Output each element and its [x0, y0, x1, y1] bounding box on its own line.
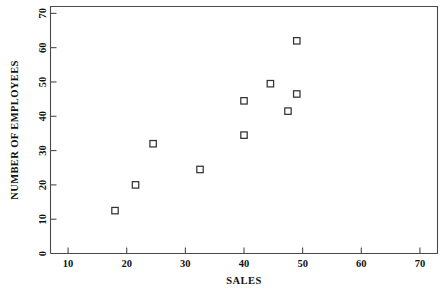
y-axis-tick-label: 60: [37, 42, 48, 53]
scatter-plot-figure: 10203040506070010203040506070SALESNUMBER…: [0, 0, 445, 290]
y-axis-tick-label: 40: [37, 111, 48, 122]
x-axis-tick-label: 10: [63, 258, 74, 269]
y-axis-title: NUMBER OF EMPLOYEES: [9, 60, 20, 200]
y-axis-tick-label: 70: [37, 8, 48, 19]
x-axis-tick-label: 30: [180, 258, 191, 269]
x-axis-tick-label: 40: [239, 258, 250, 269]
data-point-marker: [285, 108, 291, 114]
y-axis-tick-label: 10: [37, 214, 48, 225]
x-axis-tick-label: 60: [356, 258, 367, 269]
data-point-marker: [294, 38, 300, 44]
data-point-marker: [132, 182, 138, 188]
y-axis-tick-label: 50: [37, 77, 48, 88]
plot-frame: [51, 7, 438, 254]
y-axis-tick-label: 20: [37, 180, 48, 191]
data-point-marker: [267, 80, 273, 86]
data-point-marker: [150, 141, 156, 147]
data-point-marker: [197, 166, 203, 172]
scatter-plot-canvas: 10203040506070010203040506070SALESNUMBER…: [0, 0, 445, 290]
data-point-marker: [294, 91, 300, 97]
data-point-marker: [241, 98, 247, 104]
y-axis-tick-label: 30: [37, 145, 48, 156]
y-axis-tick-label: 0: [37, 251, 48, 256]
data-point-marker: [112, 207, 118, 213]
x-axis-tick-label: 70: [415, 258, 426, 269]
x-axis-tick-label: 50: [297, 258, 308, 269]
x-axis-tick-label: 20: [121, 258, 132, 269]
x-axis-title: SALES: [226, 275, 261, 286]
data-point-marker: [241, 132, 247, 138]
